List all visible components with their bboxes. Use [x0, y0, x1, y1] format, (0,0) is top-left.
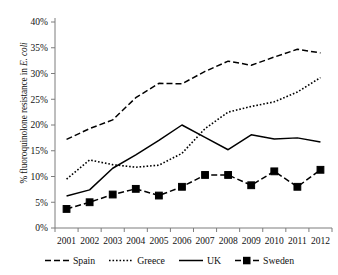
series-marker-sweden: [109, 191, 116, 198]
chart-container: 0%5%10%15%20%25%30%35%40%200120022003200…: [0, 0, 338, 275]
x-axis-tick-label: 2002: [80, 236, 99, 246]
series-marker-sweden: [202, 172, 209, 179]
series-marker-sweden: [294, 183, 301, 190]
x-axis-tick-label: 2010: [265, 236, 284, 246]
x-axis-tick-label: 2007: [196, 236, 215, 246]
series-marker-sweden: [86, 199, 93, 206]
y-axis-tick-label: 0%: [35, 223, 48, 233]
y-axis-tick-label: 35%: [31, 43, 49, 53]
x-axis-tick-label: 2008: [219, 236, 238, 246]
series-marker-sweden: [63, 206, 70, 213]
x-axis-tick-label: 2011: [288, 236, 307, 246]
y-axis-tick-label: 10%: [31, 172, 49, 182]
series-marker-sweden: [225, 172, 232, 179]
y-axis-title-plain: % fluoroquinolone resistance in: [19, 66, 29, 184]
series-marker-sweden: [155, 192, 162, 199]
series-marker-sweden: [317, 166, 324, 173]
series-line-spain: [67, 49, 321, 139]
y-axis-tick-label: 20%: [31, 120, 49, 130]
y-axis-title: % fluoroquinolone resistance in E. coli: [19, 13, 29, 213]
legend-item-sweden[interactable]: Sweden: [234, 255, 294, 266]
x-axis-tick-label: 2004: [126, 236, 145, 246]
legend-label: UK: [207, 255, 221, 266]
legend-symbol-spain: [44, 255, 70, 266]
y-axis-tick-label: 5%: [35, 198, 48, 208]
chart-legend: SpainGreeceUKSweden: [0, 248, 338, 272]
x-axis-tick-label: 2006: [172, 236, 191, 246]
x-axis-tick-label: 2009: [242, 236, 261, 246]
legend-item-greece[interactable]: Greece: [108, 255, 165, 266]
y-axis-title-italic: E. coli: [19, 42, 29, 66]
legend-label: Sweden: [263, 255, 294, 266]
x-axis-tick-label: 2005: [149, 236, 168, 246]
plot-area: 0%5%10%15%20%25%30%35%40%200120022003200…: [0, 0, 338, 246]
x-axis-tick-label: 2001: [57, 236, 76, 246]
legend-symbol-sweden: [234, 255, 260, 266]
y-axis-tick-label: 25%: [31, 95, 49, 105]
line-chart-svg: 0%5%10%15%20%25%30%35%40%200120022003200…: [0, 0, 338, 246]
x-axis-tick-label: 2012: [311, 236, 330, 246]
series-marker-sweden: [132, 185, 139, 192]
y-axis-tick-label: 40%: [31, 17, 49, 27]
x-axis-tick-label: 2003: [103, 236, 122, 246]
legend-label: Spain: [73, 255, 95, 266]
series-line-uk: [67, 125, 321, 196]
y-axis-tick-label: 30%: [31, 69, 49, 79]
series-marker-sweden: [271, 168, 278, 175]
legend-symbol-greece: [108, 255, 134, 266]
legend-item-uk[interactable]: UK: [178, 255, 221, 266]
series-marker-sweden: [179, 183, 186, 190]
series-line-greece: [67, 78, 321, 179]
legend-item-spain[interactable]: Spain: [44, 255, 95, 266]
y-axis-tick-label: 15%: [31, 146, 49, 156]
legend-symbol-uk: [178, 255, 204, 266]
series-marker-sweden: [248, 182, 255, 189]
legend-label: Greece: [137, 255, 165, 266]
